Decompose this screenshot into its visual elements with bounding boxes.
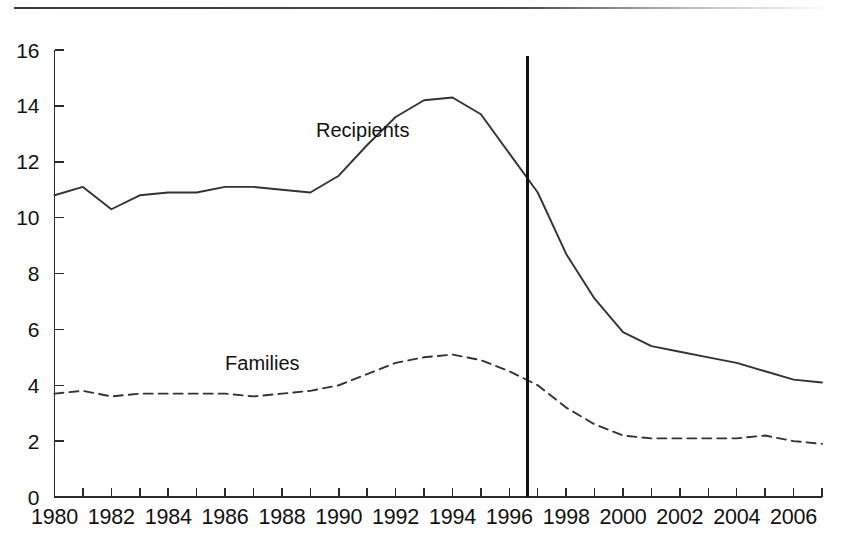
series-label-families: Families <box>225 352 299 374</box>
x-tick-label: 2004 <box>713 505 760 529</box>
series-label-recipients: Recipients <box>316 119 409 141</box>
x-tick-label: 2006 <box>770 505 817 529</box>
x-tick-label: 1994 <box>429 505 476 529</box>
x-tick-label: 1998 <box>543 505 590 529</box>
series-inline-labels: RecipientsFamilies <box>225 119 409 374</box>
y-tick-label: 4 <box>28 374 40 397</box>
line-chart: 0246810121416 19801982198419861988199019… <box>0 0 844 560</box>
y-axis-ticks <box>55 50 64 497</box>
series-line-recipients <box>55 97 823 382</box>
data-series-group <box>55 97 823 443</box>
x-axis-tick-labels: 1980198219841986198819901992199419961998… <box>31 505 817 529</box>
y-tick-label: 8 <box>28 262 40 285</box>
x-tick-label: 2000 <box>600 505 647 529</box>
x-tick-label: 1988 <box>258 505 305 529</box>
x-tick-label: 1992 <box>372 505 419 529</box>
x-tick-label: 1986 <box>202 505 249 529</box>
y-tick-label: 6 <box>28 318 40 341</box>
y-tick-label: 10 <box>16 206 39 229</box>
x-tick-label: 1980 <box>31 505 78 529</box>
y-tick-label: 12 <box>16 150 39 173</box>
x-tick-label: 2002 <box>656 505 703 529</box>
chart-container: 0246810121416 19801982198419861988199019… <box>0 0 844 560</box>
series-line-families <box>55 355 823 444</box>
x-tick-label: 1990 <box>315 505 362 529</box>
y-axis-tick-labels: 0246810121416 <box>16 39 40 509</box>
x-tick-label: 1984 <box>145 505 192 529</box>
axis-lines <box>55 50 823 497</box>
y-tick-label: 2 <box>28 430 40 453</box>
x-tick-label: 1982 <box>88 505 135 529</box>
x-axis-ticks <box>55 488 823 497</box>
y-tick-label: 16 <box>16 39 39 62</box>
y-tick-label: 14 <box>16 94 40 117</box>
x-tick-label: 1996 <box>486 505 533 529</box>
